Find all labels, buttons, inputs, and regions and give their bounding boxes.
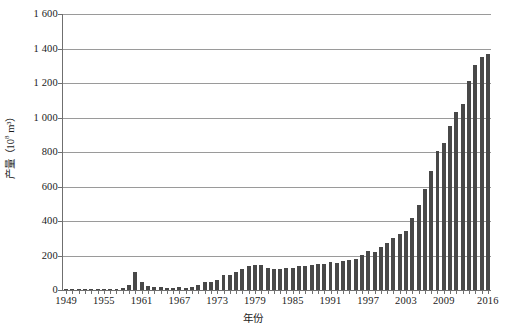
bar (203, 282, 207, 290)
x-axis-title: 年份 (0, 310, 505, 325)
bar (373, 252, 377, 290)
bar (133, 272, 137, 290)
y-axis-tick-mark (58, 256, 62, 257)
bar (322, 264, 326, 290)
bar (259, 265, 263, 290)
bar (329, 262, 333, 290)
bar (64, 289, 68, 290)
x-axis-tick-label: 1991 (311, 294, 351, 307)
x-axis-tick-label: 1967 (159, 294, 199, 307)
bar (461, 104, 465, 290)
x-axis-tick-label: 1979 (235, 294, 275, 307)
y-axis-tick-label: 1 600 (4, 9, 58, 19)
bar (310, 265, 314, 290)
bar (436, 151, 440, 290)
bar (102, 289, 106, 290)
y-axis-tick-mark (58, 83, 62, 84)
bar (341, 261, 345, 290)
bar (266, 268, 270, 290)
bar (215, 280, 219, 290)
bar (417, 205, 421, 290)
x-axis-tick-label: 1973 (197, 294, 237, 307)
bar (184, 288, 188, 290)
y-axis-title-exponent: 8 (3, 135, 11, 139)
bar (448, 126, 452, 290)
bar (278, 269, 282, 290)
y-axis-title-tail: m³） (5, 112, 16, 136)
bar (70, 289, 74, 290)
x-axis-tick-label: 1961 (122, 294, 162, 307)
y-axis-tick-mark (58, 118, 62, 119)
bar (442, 143, 446, 290)
y-axis-title: 产量（108 m³） (2, 86, 17, 206)
bar (247, 266, 251, 290)
bar (316, 264, 320, 290)
bar (297, 266, 301, 290)
bar (480, 57, 484, 290)
bar (473, 65, 477, 290)
bar (171, 288, 175, 290)
bar (391, 238, 395, 290)
y-axis-tick-mark (58, 152, 62, 153)
x-axis-tick-label: 2003 (386, 294, 426, 307)
bar (467, 81, 471, 290)
bar (89, 289, 93, 290)
x-axis-tick-label: 1985 (273, 294, 313, 307)
bar (165, 288, 169, 290)
bar-series (63, 14, 491, 290)
x-axis-tick-label: 1949 (46, 294, 86, 307)
bar (385, 243, 389, 290)
bar (209, 282, 213, 290)
x-axis-tick-label: 2009 (424, 294, 464, 307)
y-axis-tick-mark (58, 187, 62, 188)
bar (96, 289, 100, 290)
bar (454, 112, 458, 290)
bar (190, 287, 194, 290)
bar (146, 286, 150, 290)
bar (115, 289, 119, 290)
bar (196, 285, 200, 290)
bar (108, 289, 112, 290)
bar (272, 269, 276, 290)
x-axis-tick-label: 1997 (348, 294, 388, 307)
bar (486, 54, 490, 290)
y-axis-tick-label: 400 (4, 216, 58, 226)
y-axis-tick-label: 1 400 (4, 44, 58, 54)
x-axis-tick-label: 1955 (84, 294, 124, 307)
bar (253, 265, 257, 290)
bar (291, 268, 295, 290)
bar (347, 260, 351, 290)
bar (379, 247, 383, 290)
bar (404, 231, 408, 290)
bar (83, 289, 87, 290)
bar (410, 218, 414, 290)
bar (140, 282, 144, 290)
bar (423, 189, 427, 290)
bar (222, 275, 226, 290)
y-axis-title-base: 产量（10 (5, 139, 16, 180)
bar (228, 275, 232, 290)
y-axis-tick-mark (58, 49, 62, 50)
bar (303, 266, 307, 290)
bar (234, 272, 238, 290)
x-axis-tick-group: 1949195519611967197319791985199119972003… (0, 291, 505, 311)
x-axis-tick-label: 2016 (468, 294, 505, 307)
bar (121, 288, 125, 290)
y-axis-tick-mark (58, 14, 62, 15)
y-axis-tick-label: 200 (4, 251, 58, 261)
bar (429, 171, 433, 290)
bar (398, 234, 402, 290)
bar (335, 263, 339, 290)
bar (360, 255, 364, 290)
bar (177, 287, 181, 290)
bar (354, 259, 358, 290)
bar (240, 269, 244, 290)
chart-container: 1 6001 4001 2001 0008006004002000 194919… (0, 0, 505, 333)
plot-area (63, 14, 491, 290)
bar (77, 289, 81, 290)
bar (127, 285, 131, 290)
y-axis-tick-mark (58, 221, 62, 222)
bar (152, 287, 156, 290)
bar (284, 268, 288, 290)
bar (366, 251, 370, 290)
